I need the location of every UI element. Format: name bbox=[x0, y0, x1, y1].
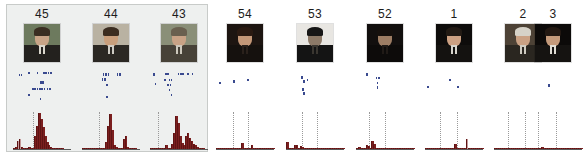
scatter-point bbox=[50, 72, 52, 74]
scatter-point bbox=[427, 86, 429, 88]
scatter-point bbox=[106, 84, 108, 86]
gridline bbox=[369, 112, 370, 150]
scatter-point bbox=[104, 78, 106, 80]
panel-id-label: 53 bbox=[284, 8, 346, 20]
scatter-point bbox=[40, 98, 42, 100]
scatter-point bbox=[42, 81, 44, 83]
scatter-point bbox=[49, 88, 51, 90]
scatter-point bbox=[44, 88, 46, 90]
scatter-plot bbox=[356, 70, 414, 104]
scatter-point bbox=[377, 86, 379, 88]
panel-43[interactable]: 43 bbox=[148, 0, 210, 158]
panel-container: 454443545352123 bbox=[0, 0, 585, 158]
histogram-baseline bbox=[356, 149, 414, 150]
scatter-point bbox=[182, 73, 184, 75]
panel-53[interactable]: 53 bbox=[284, 0, 346, 158]
scatter-point bbox=[108, 73, 110, 75]
histogram-baseline bbox=[13, 149, 71, 150]
panel-id-label: 45 bbox=[11, 8, 73, 20]
scatter-point bbox=[21, 74, 23, 76]
panel-45[interactable]: 45 bbox=[11, 0, 73, 158]
gridline bbox=[457, 112, 458, 150]
figure-root: 454443545352123 bbox=[0, 0, 585, 158]
histogram-baseline bbox=[82, 149, 140, 150]
histogram-baseline bbox=[286, 149, 344, 150]
histogram bbox=[524, 112, 582, 150]
panel-3[interactable]: 3 bbox=[522, 0, 584, 158]
portrait-thumbnail[interactable] bbox=[436, 24, 472, 62]
scatter-point bbox=[169, 89, 171, 91]
gridline bbox=[99, 112, 100, 150]
scatter-point bbox=[377, 82, 379, 84]
scatter-point bbox=[119, 73, 121, 75]
scatter-point bbox=[301, 76, 303, 78]
portrait-thumbnail[interactable] bbox=[161, 24, 197, 62]
scatter-point bbox=[233, 80, 235, 82]
scatter-point bbox=[449, 79, 451, 81]
panel-54[interactable]: 54 bbox=[214, 0, 276, 158]
portrait-thumbnail[interactable] bbox=[24, 24, 60, 62]
histogram bbox=[150, 112, 208, 150]
scatter-point bbox=[303, 92, 305, 94]
panel-id-label: 54 bbox=[214, 8, 276, 20]
gridline bbox=[317, 112, 318, 150]
gridline bbox=[233, 112, 234, 150]
scatter-point bbox=[167, 73, 169, 75]
scatter-point bbox=[378, 77, 380, 79]
gridline bbox=[302, 112, 303, 150]
scatter-plot bbox=[13, 70, 71, 104]
scatter-point bbox=[457, 86, 459, 88]
histogram bbox=[425, 112, 483, 150]
histogram-baseline bbox=[425, 149, 483, 150]
histogram-baseline bbox=[150, 149, 208, 150]
scatter-point bbox=[171, 79, 173, 81]
scatter-point bbox=[171, 94, 173, 96]
scatter-point bbox=[155, 83, 157, 85]
portrait-thumbnail[interactable] bbox=[535, 24, 571, 62]
scatter-plot bbox=[524, 70, 582, 104]
histogram bbox=[356, 112, 414, 150]
gridline bbox=[508, 112, 509, 150]
histogram bbox=[13, 112, 71, 150]
scatter-point bbox=[28, 94, 30, 96]
gridline bbox=[556, 112, 557, 150]
scatter-point bbox=[106, 96, 108, 98]
gridline bbox=[385, 112, 386, 150]
scatter-point bbox=[192, 73, 194, 75]
scatter-point bbox=[219, 82, 221, 84]
scatter-plot bbox=[216, 70, 274, 104]
scatter-plot bbox=[150, 70, 208, 104]
scatter-point bbox=[548, 84, 550, 86]
scatter-point bbox=[303, 80, 305, 82]
scatter-plot bbox=[286, 70, 344, 104]
panel-id-label: 3 bbox=[522, 8, 584, 20]
scatter-point bbox=[307, 79, 309, 81]
panel-52[interactable]: 52 bbox=[354, 0, 416, 158]
scatter-point bbox=[153, 73, 155, 75]
histogram bbox=[82, 112, 140, 150]
portrait-thumbnail[interactable] bbox=[367, 24, 403, 62]
scatter-plot bbox=[82, 70, 140, 104]
gridline bbox=[158, 112, 159, 150]
panel-id-label: 52 bbox=[354, 8, 416, 20]
scatter-point bbox=[37, 72, 39, 74]
panel-id-label: 1 bbox=[423, 8, 485, 20]
portrait-thumbnail[interactable] bbox=[93, 24, 129, 62]
histogram-baseline bbox=[216, 149, 274, 150]
scatter-point bbox=[164, 79, 166, 81]
portrait-thumbnail[interactable] bbox=[227, 24, 263, 62]
gridline bbox=[440, 112, 441, 150]
panel-44[interactable]: 44 bbox=[80, 0, 142, 158]
scatter-point bbox=[187, 73, 189, 75]
panel-1[interactable]: 1 bbox=[423, 0, 485, 158]
scatter-point bbox=[170, 84, 172, 86]
scatter-point bbox=[247, 79, 249, 81]
histogram-baseline bbox=[524, 149, 582, 150]
portrait-thumbnail[interactable] bbox=[297, 24, 333, 62]
histogram bbox=[216, 112, 274, 150]
panel-id-label: 44 bbox=[80, 8, 142, 20]
gridline bbox=[248, 112, 249, 150]
scatter-point bbox=[366, 73, 368, 75]
histogram bbox=[286, 112, 344, 150]
scatter-point bbox=[28, 72, 30, 74]
